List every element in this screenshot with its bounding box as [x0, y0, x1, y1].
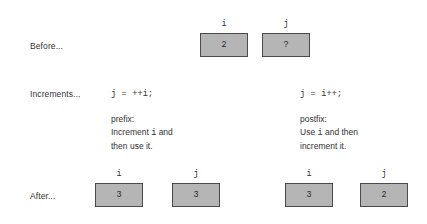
- before-box-j: ?: [262, 33, 310, 57]
- after-postfix-box-j-value: 2: [381, 191, 386, 200]
- before-box-i-value: 2: [221, 41, 226, 50]
- postfix-note-line-2-after: and then: [323, 127, 358, 137]
- prefix-note-line-2: Increment i and: [111, 126, 173, 140]
- increments-row-label: Increments...: [30, 89, 80, 99]
- postfix-note-line-3: increment it.: [300, 140, 358, 153]
- postfix-note-title: postfix:: [300, 113, 358, 126]
- after-prefix-box-i: 3: [95, 183, 143, 207]
- postfix-note-line-2-before: Use: [300, 127, 317, 137]
- after-prefix-box-i-name: i: [95, 169, 143, 179]
- before-box-i: 2: [200, 33, 248, 57]
- after-prefix-box-j-value: 3: [193, 191, 198, 200]
- increment-diagram: Before... i 2 j ? Increments... j = ++i;…: [0, 0, 427, 224]
- after-postfix-box-i-value: 3: [306, 191, 311, 200]
- postfix-note-line-2: Use i and then: [300, 126, 358, 140]
- before-box-j-name: j: [262, 19, 310, 29]
- after-prefix-box-j-name: j: [172, 169, 220, 179]
- prefix-note-line-2-before: Increment: [111, 127, 151, 137]
- prefix-note-line-2-after: and: [156, 127, 173, 137]
- prefix-code: j = ++i;: [111, 89, 153, 99]
- after-postfix-box-j-name: j: [360, 169, 408, 179]
- after-postfix-box-j: 2: [360, 183, 408, 207]
- prefix-note-title: prefix:: [111, 113, 173, 126]
- prefix-note-line-3: then use it.: [111, 140, 173, 153]
- after-prefix-box-i-value: 3: [116, 191, 121, 200]
- before-box-j-value: ?: [283, 41, 288, 50]
- after-postfix-box-i-name: i: [285, 169, 333, 179]
- before-row-label: Before...: [30, 41, 63, 51]
- after-row-label: After...: [30, 191, 55, 201]
- postfix-code: j = i++;: [300, 89, 342, 99]
- before-box-i-name: i: [200, 19, 248, 29]
- after-postfix-box-i: 3: [285, 183, 333, 207]
- prefix-note: prefix: Increment i and then use it.: [111, 113, 173, 153]
- after-prefix-box-j: 3: [172, 183, 220, 207]
- postfix-note: postfix: Use i and then increment it.: [300, 113, 358, 153]
